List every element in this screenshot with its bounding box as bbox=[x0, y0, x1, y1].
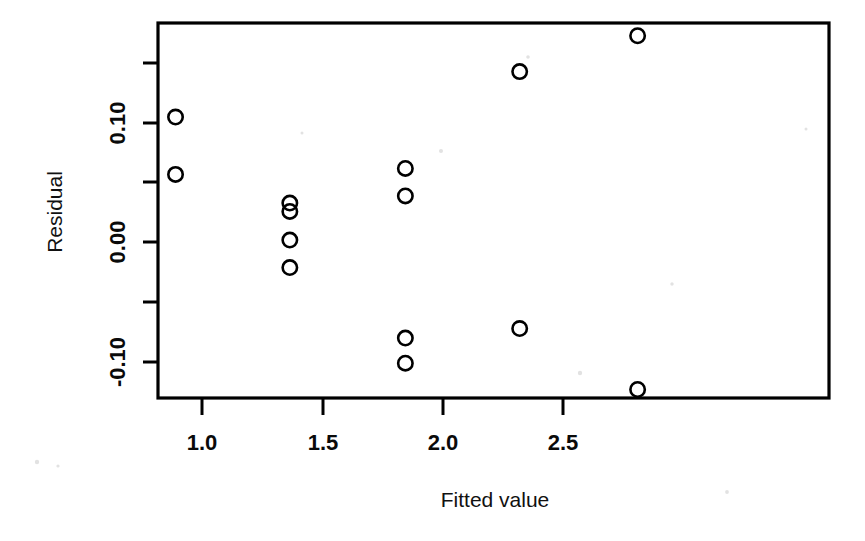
x-tick-label: 2.5 bbox=[548, 430, 579, 455]
y-tick-label: -0.10 bbox=[105, 337, 130, 387]
x-tick-label: 2.0 bbox=[428, 430, 459, 455]
x-tick-label: 1.5 bbox=[308, 430, 339, 455]
y-tick-label: 0.10 bbox=[105, 102, 130, 145]
y-tick-label: 0.00 bbox=[105, 221, 130, 264]
figure-background bbox=[0, 0, 865, 541]
residual-plot-figure: 0.10 0.00 -0.10 1.0 1.5 2.0 2.5 Fitted v… bbox=[0, 0, 865, 541]
x-axis-title: Fitted value bbox=[441, 488, 550, 511]
y-axis-tick-labels: 0.10 0.00 -0.10 bbox=[105, 102, 130, 387]
x-tick-label: 1.0 bbox=[187, 430, 218, 455]
y-axis-title: Residual bbox=[43, 171, 66, 253]
scatter-plot-canvas: 0.10 0.00 -0.10 1.0 1.5 2.0 2.5 Fitted v… bbox=[0, 0, 865, 541]
